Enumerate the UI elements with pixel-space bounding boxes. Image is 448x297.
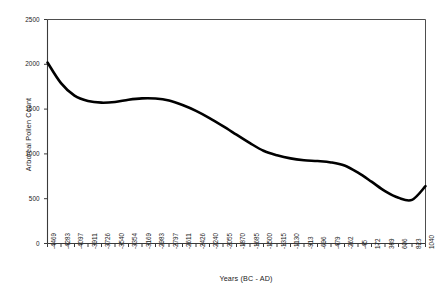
x-tick-label: -1685 [253,232,260,248]
x-axis-title: Years (BC - AD) [156,274,336,283]
x-tick-label: -2797 [172,232,179,248]
x-tick-label: 606 [401,238,408,249]
x-tick-label: -4469 [50,232,57,248]
x-tick-label: -2055 [226,232,233,248]
x-tick-label: -2426 [199,232,206,248]
chart-figure: 05001000150020002500 -4469-4283-4097-391… [0,0,448,297]
x-tick-label: -2983 [158,232,165,248]
x-tick-label: -4097 [77,232,84,248]
x-tick-label: -262 [347,236,354,249]
x-tick-label: -4283 [64,232,71,248]
x-tick-label: 823 [415,238,422,249]
x-tick-label: -1315 [280,232,287,248]
x-tick-label: -3911 [91,233,98,249]
x-tick-label: 1040 [428,234,435,248]
x-tick-label: -696 [320,236,327,249]
x-tick-label: -1500 [266,232,273,248]
x-tick-label: -2240 [212,232,219,248]
x-tick-label: -2611 [185,233,192,249]
x-tick-label: -45 [361,239,368,248]
x-tick-label: -1130 [293,233,300,249]
chart-background [0,0,448,297]
y-tick-label: 0 [10,240,40,247]
x-tick-label: -3726 [104,232,111,248]
y-tick-label: 2500 [10,16,40,23]
x-tick-label: -479 [334,236,341,249]
x-tick-label: 172 [374,238,381,249]
x-tick-label: -913 [307,236,314,249]
x-tick-label: -3354 [131,232,138,248]
x-tick-label: -3540 [118,232,125,248]
pollen-count-line-chart [0,0,448,297]
x-tick-label: 389 [388,238,395,249]
x-tick-label: -3169 [145,232,152,248]
x-tick-label: -1870 [239,232,246,248]
y-axis-title: Arboreal Pollen Count [24,55,33,215]
